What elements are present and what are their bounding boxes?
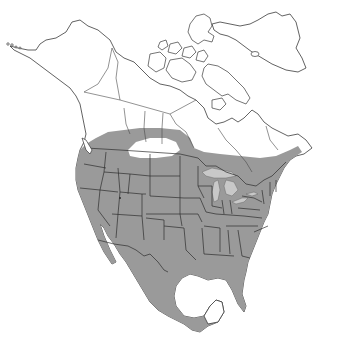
species-range <box>76 128 302 332</box>
ellesmere-island <box>188 14 214 44</box>
arctic-island-2 <box>182 46 196 58</box>
arctic-island-4 <box>158 40 168 50</box>
banks-island <box>148 52 166 72</box>
greenland <box>212 12 306 72</box>
baffin-island <box>202 64 250 104</box>
arctic-island-1 <box>168 42 182 54</box>
greenland-inlet <box>251 52 259 57</box>
southampton-island <box>212 98 226 110</box>
yucatan-peninsula <box>204 300 224 324</box>
great-salt-lake-marker <box>119 197 121 199</box>
north-america-map <box>0 0 338 342</box>
range-map <box>0 0 338 342</box>
victoria-island <box>166 58 196 82</box>
arctic-island-3 <box>196 50 208 62</box>
